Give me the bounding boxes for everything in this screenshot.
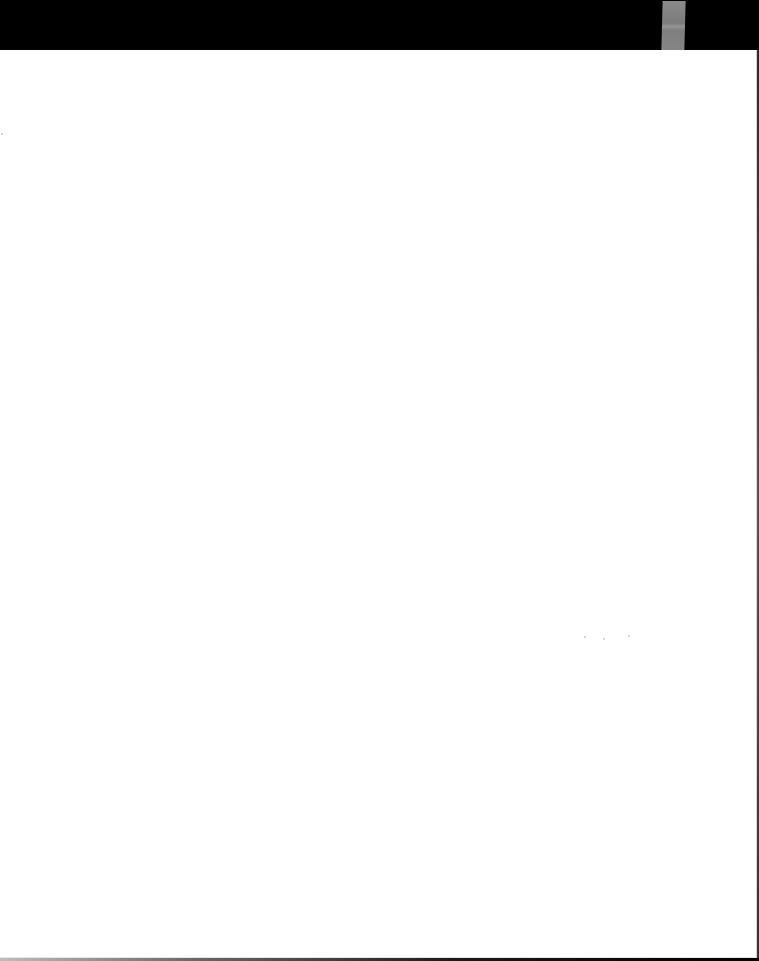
scan-speck <box>628 635 630 637</box>
scan-speck <box>603 638 605 640</box>
scanner-top-band <box>0 0 759 50</box>
page-tab-marker <box>661 1 685 50</box>
scan-speck <box>1 133 3 135</box>
blank-page <box>0 50 757 958</box>
scan-speck <box>584 636 586 638</box>
scanned-document <box>0 0 759 961</box>
